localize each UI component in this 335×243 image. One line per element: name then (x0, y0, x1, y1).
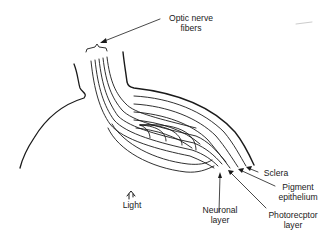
bracket-icon (86, 44, 107, 52)
arrowheads (100, 38, 252, 178)
retina-diagram (0, 0, 335, 243)
label-neuronal-layer: Neuronal layer (196, 205, 244, 225)
leader-lines (102, 19, 275, 212)
optic-nerve-fibers (91, 57, 226, 168)
label-pigment-epithelium: Pigment epithelium (270, 182, 326, 202)
eyeball-outline-left (20, 64, 85, 168)
upward-arrow-icon (127, 191, 135, 199)
label-optic-nerve-fibers: Optic nerve fibers (160, 13, 222, 33)
label-sclera: Sclera (258, 168, 294, 178)
label-light: Light (118, 200, 146, 210)
smudge-mark (296, 22, 312, 24)
label-photoreceptor-layer: Photorecptor layer (258, 210, 328, 230)
